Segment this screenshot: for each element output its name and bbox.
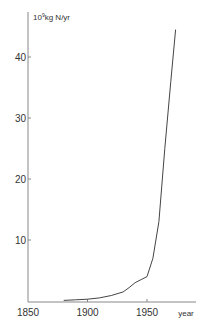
y-tick-label: 40	[15, 52, 27, 63]
x-tick-label: 1900	[76, 307, 99, 318]
x-tick-label: 1950	[136, 307, 159, 318]
y-tick-label: 30	[15, 113, 27, 124]
chart: 10 20 30 40 1850 1900 1950 109kg N/yr ye…	[0, 0, 216, 332]
x-tick-label: 1850	[17, 307, 40, 318]
y-tick-label: 10	[15, 235, 27, 246]
data-line	[64, 30, 176, 301]
y-ticks: 10 20 30 40	[15, 52, 31, 246]
x-axis-unit-label: year	[178, 309, 194, 318]
y-tick-label: 20	[15, 174, 27, 185]
y-axis-unit-label: 109kg N/yr	[33, 12, 70, 22]
